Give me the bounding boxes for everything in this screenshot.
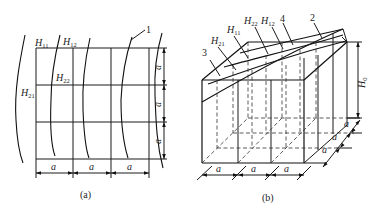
panel-b: H0 a a a a a a	[197, 12, 368, 204]
panel-a-contour-curves	[16, 33, 163, 168]
dim-b-a2: a	[251, 163, 256, 174]
label-h11-b: H11	[226, 24, 241, 36]
callout-2-label: 2	[310, 12, 315, 23]
panel-b-bottom-dimension: a a a	[197, 163, 311, 180]
panel-b-caption: (b)	[262, 192, 274, 204]
label-h21-a: H21	[20, 87, 35, 99]
dim-a-v1: a	[152, 65, 163, 70]
dim-a-3: a	[127, 161, 132, 172]
callout-4-label: 4	[280, 13, 285, 24]
panel-a-grid	[36, 48, 167, 178]
panel-a: 1 H11 H12 H22 H21 a a a a a a (a)	[16, 24, 167, 201]
dim-a-v2: a	[152, 102, 163, 107]
label-h21-b: H21	[210, 35, 225, 47]
panel-a-caption: (a)	[80, 189, 91, 201]
panel-a-bottom-dimension: a a a	[36, 161, 149, 175]
dim-a-1: a	[51, 161, 56, 172]
dim-b-a3: a	[284, 163, 289, 174]
dim-b-a1: a	[216, 163, 221, 174]
dim-b-d1: a	[322, 144, 327, 155]
label-h22-a: H22	[55, 72, 70, 84]
label-h12-a: H12	[62, 36, 77, 48]
label-h11-a: H11	[34, 37, 49, 49]
figure-canvas: 1 H11 H12 H22 H21 a a a a a a (a)	[0, 0, 376, 211]
label-h22-b: H22	[243, 15, 258, 27]
dim-b-d2: a	[332, 131, 337, 142]
label-h12-b: H12	[260, 15, 275, 27]
panel-a-right-dimension: a a a	[152, 48, 166, 159]
panel-b-h0-dimension: H0	[347, 42, 368, 118]
callout-1-label: 1	[146, 24, 151, 35]
dim-a-v3: a	[152, 139, 163, 144]
callout-3-label: 3	[202, 47, 207, 58]
callout-1-leader	[131, 30, 145, 40]
dim-b-d3: a	[344, 118, 349, 129]
dim-a-2: a	[89, 161, 94, 172]
